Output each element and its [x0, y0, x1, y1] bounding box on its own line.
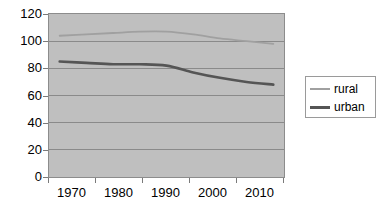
- y-tick-label: 20: [0, 143, 42, 156]
- x-tick-mark: [189, 178, 190, 183]
- x-tick-mark: [283, 178, 284, 183]
- x-tick-label: 2010: [245, 185, 274, 200]
- x-tick-mark: [142, 178, 143, 183]
- line-chart: 020406080100120 19701980199020002010 rur…: [0, 0, 385, 211]
- plot-series-svg: [49, 14, 284, 177]
- y-tick-label: 0: [0, 170, 42, 183]
- x-axis-tick-marks: [48, 178, 286, 184]
- legend-entry-urban[interactable]: urban: [306, 98, 375, 116]
- y-tick-label: 60: [0, 89, 42, 102]
- y-tick-label: 100: [0, 34, 42, 47]
- y-tick-label: 80: [0, 61, 42, 74]
- y-tick-label: 40: [0, 116, 42, 129]
- legend-label-rural: rural: [334, 83, 358, 96]
- x-tick-mark: [48, 178, 49, 183]
- x-tick-label: 2000: [198, 185, 227, 200]
- x-tick-label: 1970: [57, 185, 86, 200]
- legend-label-urban: urban: [334, 101, 365, 114]
- legend-entry-rural[interactable]: rural: [306, 80, 375, 98]
- y-tick-label: 120: [0, 7, 42, 20]
- x-axis-labels: 19701980199020002010: [48, 185, 286, 205]
- series-line-rural: [60, 31, 274, 43]
- plot-area: [48, 13, 285, 178]
- gridlines: [49, 41, 284, 150]
- series-paths: [60, 31, 274, 84]
- x-tick-mark: [95, 178, 96, 183]
- x-tick-mark: [236, 178, 237, 183]
- legend: rural urban: [305, 76, 376, 118]
- x-tick-label: 1980: [104, 185, 133, 200]
- series-line-urban: [60, 62, 274, 85]
- x-tick-label: 1990: [151, 185, 180, 200]
- legend-line-swatch-rural: [310, 88, 330, 90]
- legend-line-swatch-urban: [310, 106, 330, 109]
- y-axis-labels: 020406080100120: [0, 0, 42, 211]
